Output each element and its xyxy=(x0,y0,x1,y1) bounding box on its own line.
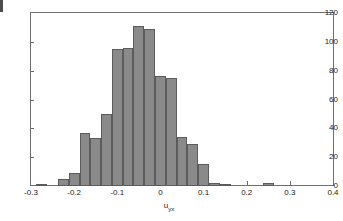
figure-edge-strip xyxy=(0,0,3,12)
histogram-bar xyxy=(155,76,166,186)
histogram-bar xyxy=(69,173,80,186)
histogram-bar xyxy=(263,183,274,186)
histogram-bar xyxy=(144,29,155,186)
histogram-bar xyxy=(123,48,134,186)
histogram-bar xyxy=(198,164,209,186)
x-axis-label-subscript: yx xyxy=(168,206,174,212)
x-axis-label: uyx xyxy=(0,201,338,212)
x-axis-tick-label: 0.3 xyxy=(273,188,307,197)
x-axis-tick-label: 0.4 xyxy=(316,188,343,197)
histogram-bar xyxy=(112,49,123,186)
histogram-bar xyxy=(187,144,198,186)
histogram-bar xyxy=(36,184,47,186)
histogram-bar xyxy=(80,133,91,186)
histogram-bar xyxy=(166,78,177,186)
x-axis-tick-label: 0.2 xyxy=(230,188,264,197)
x-axis-tick-label: -0.1 xyxy=(100,188,134,197)
x-axis-tick-label: 0 xyxy=(143,188,177,197)
x-axis-tick-label: -0.2 xyxy=(57,188,91,197)
histogram-bar xyxy=(133,26,144,186)
histogram-bar xyxy=(220,184,231,186)
x-axis-tick-label: -0.3 xyxy=(14,188,48,197)
histogram-bar xyxy=(209,183,220,186)
histogram-bar xyxy=(177,137,188,186)
histogram-bar xyxy=(101,114,112,186)
histogram-bars xyxy=(31,13,333,186)
histogram-bar xyxy=(90,138,101,186)
x-axis-tick-label: 0.1 xyxy=(187,188,221,197)
histogram-bar xyxy=(58,179,69,186)
